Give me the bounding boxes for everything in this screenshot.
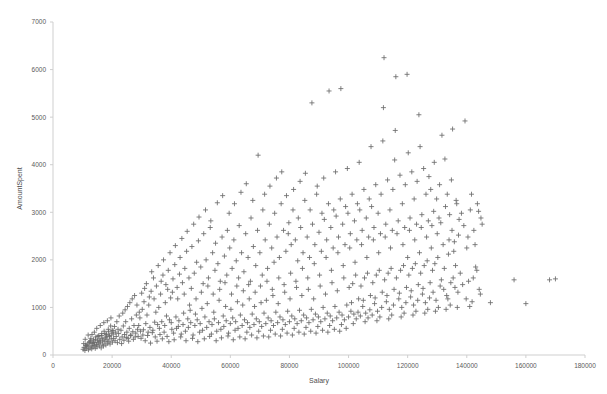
data-point bbox=[415, 298, 420, 303]
data-point bbox=[146, 303, 151, 308]
data-point bbox=[215, 200, 220, 205]
data-point bbox=[388, 245, 393, 250]
data-point bbox=[206, 275, 211, 280]
data-point bbox=[168, 295, 173, 300]
y-tick-label: 4000 bbox=[32, 161, 47, 168]
data-point bbox=[405, 72, 410, 77]
data-point bbox=[460, 282, 465, 287]
data-point bbox=[142, 286, 147, 291]
data-point bbox=[416, 282, 421, 287]
data-point bbox=[553, 276, 558, 281]
data-point bbox=[355, 201, 360, 206]
data-point bbox=[214, 338, 219, 343]
data-point bbox=[417, 250, 422, 255]
y-tick-label: 3000 bbox=[32, 209, 47, 216]
data-point bbox=[263, 321, 268, 326]
data-point bbox=[309, 307, 314, 312]
data-point bbox=[139, 291, 144, 296]
data-point bbox=[123, 319, 128, 324]
data-point bbox=[202, 336, 207, 341]
data-point bbox=[314, 192, 319, 197]
data-point bbox=[181, 322, 186, 327]
data-point bbox=[233, 319, 238, 324]
data-point bbox=[307, 255, 312, 260]
data-point bbox=[221, 324, 226, 329]
data-point bbox=[466, 279, 471, 284]
data-point bbox=[188, 320, 193, 325]
data-point bbox=[415, 179, 420, 184]
data-point bbox=[320, 328, 325, 333]
data-point bbox=[266, 315, 271, 320]
data-point bbox=[340, 313, 345, 318]
data-point bbox=[346, 314, 351, 319]
data-point bbox=[397, 173, 402, 178]
data-point bbox=[182, 266, 187, 271]
data-point bbox=[156, 305, 161, 310]
data-point bbox=[299, 318, 304, 323]
data-point bbox=[125, 304, 130, 309]
y-tick-label: 7000 bbox=[32, 18, 47, 25]
data-point bbox=[396, 218, 401, 223]
data-point bbox=[302, 198, 307, 203]
data-point bbox=[343, 242, 348, 247]
data-point bbox=[435, 255, 440, 260]
data-point bbox=[321, 305, 326, 310]
data-point bbox=[357, 207, 362, 212]
data-point bbox=[162, 323, 167, 328]
x-axis-title: Salary bbox=[309, 377, 329, 385]
data-point bbox=[199, 306, 204, 311]
data-point bbox=[159, 319, 164, 324]
data-point bbox=[170, 290, 175, 295]
data-point bbox=[423, 300, 428, 305]
data-point bbox=[292, 326, 297, 331]
data-point bbox=[134, 313, 139, 318]
data-point bbox=[230, 315, 235, 320]
data-point bbox=[336, 235, 341, 240]
data-point bbox=[83, 337, 88, 342]
data-point bbox=[382, 55, 387, 60]
data-point bbox=[463, 118, 468, 123]
data-point bbox=[185, 316, 190, 321]
data-point bbox=[301, 313, 306, 318]
data-point bbox=[403, 300, 408, 305]
data-point bbox=[173, 314, 178, 319]
data-point bbox=[332, 327, 337, 332]
data-point bbox=[308, 207, 313, 212]
data-point bbox=[129, 316, 134, 321]
data-point bbox=[452, 285, 457, 290]
data-point bbox=[376, 211, 381, 216]
data-point bbox=[372, 301, 377, 306]
data-point bbox=[314, 331, 319, 336]
data-point bbox=[360, 228, 365, 233]
data-point bbox=[379, 305, 384, 310]
data-point bbox=[421, 286, 426, 291]
data-point bbox=[247, 296, 252, 301]
data-point bbox=[282, 282, 287, 287]
data-point bbox=[172, 337, 177, 342]
x-tick-label: 0 bbox=[51, 362, 55, 369]
data-point bbox=[260, 273, 265, 278]
data-point bbox=[473, 242, 478, 247]
data-point bbox=[240, 323, 245, 328]
data-point bbox=[127, 326, 132, 331]
data-point bbox=[361, 187, 366, 192]
x-tick-label: 160000 bbox=[515, 362, 537, 369]
data-point bbox=[189, 286, 194, 291]
data-point bbox=[393, 74, 398, 79]
data-point bbox=[249, 333, 254, 338]
data-point bbox=[279, 169, 284, 174]
data-point bbox=[380, 138, 385, 143]
data-point bbox=[286, 220, 291, 225]
data-point bbox=[227, 211, 232, 216]
data-point bbox=[150, 328, 155, 333]
data-point bbox=[175, 285, 180, 290]
data-point bbox=[455, 290, 460, 295]
data-point bbox=[180, 280, 185, 285]
x-tick-label: 20000 bbox=[103, 362, 121, 369]
data-point bbox=[444, 307, 449, 312]
data-point bbox=[390, 228, 395, 233]
data-point bbox=[123, 307, 128, 312]
data-point bbox=[330, 280, 335, 285]
data-point bbox=[476, 209, 481, 214]
data-point bbox=[137, 310, 142, 315]
